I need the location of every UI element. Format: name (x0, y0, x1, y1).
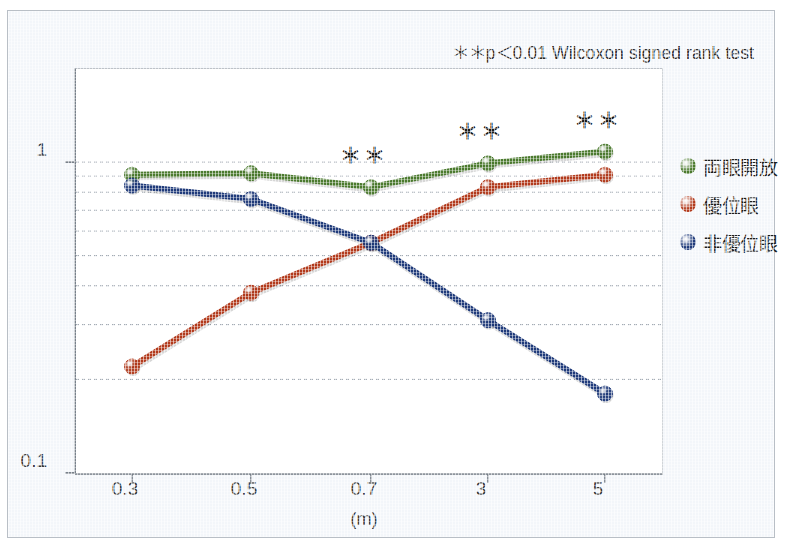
x-tick-label-2: 0.7 (324, 478, 404, 500)
chart-legend: 両眼開放 優位眼 非優位眼 (680, 147, 787, 261)
y-tick-label-0: 1 (36, 139, 47, 161)
legend-label-2: 非優位眼 (703, 229, 777, 256)
legend-marker-icon-1 (680, 196, 696, 212)
legend-label-0: 両眼開放 (703, 153, 777, 180)
significance-note: ＊＊p＜0.01 Wilcoxon signed rank test (452, 39, 754, 64)
significance-marker-0.7: ＊＊ (338, 139, 390, 169)
y-tick-label-1: 0.1 (21, 450, 47, 472)
figure-panel: ＊＊p＜0.01 Wilcoxon signed rank test 両眼開放 … (7, 10, 775, 538)
x-tick-label-0: 0.3 (85, 478, 165, 500)
x-axis-unit-label: (m) (324, 509, 404, 530)
legend-item-2[interactable]: 非優位眼 (680, 223, 787, 261)
x-tick-label-4: 5 (558, 478, 638, 500)
legend-item-0[interactable]: 両眼開放 (680, 147, 787, 185)
significance-marker-3: ＊＊ (455, 115, 507, 145)
x-tick-label-3: 3 (441, 478, 521, 500)
figure-container: ＊＊p＜0.01 Wilcoxon signed rank test 両眼開放 … (0, 0, 787, 550)
significance-marker-5: ＊＊ (572, 104, 624, 134)
legend-label-1: 優位眼 (703, 191, 759, 218)
legend-item-1[interactable]: 優位眼 (680, 185, 787, 223)
legend-marker-icon-2 (680, 234, 696, 250)
x-tick-label-1: 0.5 (204, 478, 284, 500)
legend-marker-icon-0 (680, 158, 696, 174)
